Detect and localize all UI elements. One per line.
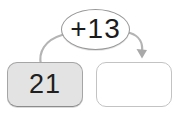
operation-label: +13	[70, 15, 121, 43]
arrow-left-arc	[40, 35, 62, 65]
number-machine-diagram: 21 +13	[0, 0, 179, 113]
input-value: 21	[29, 71, 61, 98]
arrow-right-arc	[130, 33, 142, 52]
arrow-head	[137, 49, 148, 59]
input-box: 21	[7, 62, 83, 107]
answer-box[interactable]	[96, 62, 172, 107]
operation-oval: +13	[61, 9, 130, 50]
